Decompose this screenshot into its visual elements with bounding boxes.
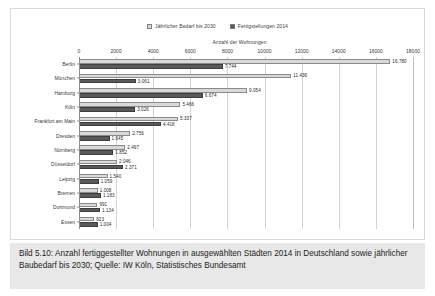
bar-value-label: 1.004 — [100, 222, 112, 227]
bar-bedarf — [79, 117, 178, 122]
x-tick-label: 4000 — [148, 48, 159, 54]
bar-item: 2.497 — [79, 145, 413, 150]
x-tick-label: 18000 — [406, 48, 420, 54]
x-tick-label: 2000 — [111, 48, 122, 54]
bar-item: 1.645 — [79, 136, 413, 141]
category-label: Frankfurt am Main — [34, 118, 75, 124]
x-tick-label: 16000 — [369, 48, 383, 54]
category-label: Leipzig — [59, 176, 75, 182]
bar-item: 7.744 — [79, 64, 413, 69]
bar-item: 4.418 — [79, 122, 413, 127]
bar-fertigstellungen — [79, 64, 223, 69]
chart-legend: Jährlicher Bedarf bis 2030 Fertigstellun… — [11, 23, 424, 29]
x-tick-label: 0 — [78, 48, 81, 54]
bar-group: 9.0546.674 — [79, 88, 413, 98]
bar-value-label: 1.183 — [103, 193, 115, 198]
bar-value-label: 1.059 — [101, 179, 113, 184]
bar-fertigstellungen — [79, 208, 100, 213]
bar-item: 16.780 — [79, 59, 413, 64]
x-tick-label: 12000 — [295, 48, 309, 54]
bar-row: Frankfurt am Main5.3374.418 — [79, 114, 413, 128]
bar-group: 9911.134 — [79, 203, 413, 213]
x-tick-label: 14000 — [332, 48, 346, 54]
x-axis-title: Anzahl der Wohnungen — [11, 39, 424, 45]
bar-item: 11.436 — [79, 74, 413, 79]
bar-row: Bremen1.0081.183 — [79, 186, 413, 200]
bar-item: 2.046 — [79, 160, 413, 165]
bar-value-label: 9.054 — [249, 88, 261, 93]
bar-bedarf — [79, 145, 125, 150]
bar-fertigstellungen — [79, 122, 161, 127]
bar-value-label: 2.497 — [127, 145, 139, 150]
legend-swatch-icon-fertigstellungen — [230, 24, 235, 29]
bar-value-label: 1.645 — [112, 136, 124, 141]
gridline — [79, 57, 80, 229]
category-label: Berlin — [62, 61, 75, 67]
bar-bedarf — [79, 74, 291, 79]
bar-value-label: 3.061 — [138, 79, 150, 84]
x-tick-label: 6000 — [185, 48, 196, 54]
figure-container: Jährlicher Bedarf bis 2030 Fertigstellun… — [0, 0, 435, 296]
bar-rows: Berlin16.7807.744München11.4363.061Hambu… — [79, 57, 413, 229]
bar-item: 1.008 — [79, 188, 413, 193]
bar-fertigstellungen — [79, 222, 98, 227]
x-tick-label: 8000 — [222, 48, 233, 54]
bar-item: 2.371 — [79, 165, 413, 170]
bar-row: Dresden2.7561.645 — [79, 129, 413, 143]
bar-bedarf — [79, 59, 390, 64]
bar-item: 6.674 — [79, 93, 413, 98]
bar-group: 2.4971.852 — [79, 145, 413, 155]
bar-item: 2.756 — [79, 131, 413, 136]
bar-group: 2.0462.371 — [79, 160, 413, 170]
bar-item: 991 — [79, 203, 413, 208]
bar-item: 5.337 — [79, 117, 413, 122]
bar-group: 5.3374.418 — [79, 117, 413, 127]
bar-bedarf — [79, 131, 130, 136]
bar-fertigstellungen — [79, 193, 101, 198]
bar-bedarf — [79, 88, 247, 93]
category-label: Bremen — [57, 190, 75, 196]
bar-row: Hamburg9.0546.674 — [79, 86, 413, 100]
bar-row: Dortmund9911.134 — [79, 200, 413, 214]
bar-bedarf — [79, 203, 97, 208]
bar-value-label: 16.780 — [392, 59, 406, 64]
bar-value-label: 7.744 — [225, 64, 237, 69]
category-label: Dresden — [56, 133, 75, 139]
bar-value-label: 1.134 — [102, 208, 114, 213]
bar-item: 5.466 — [79, 102, 413, 107]
category-label: Essen — [61, 219, 75, 225]
bar-item: 1.852 — [79, 150, 413, 155]
bar-group: 2.7561.645 — [79, 131, 413, 141]
bar-bedarf — [79, 102, 180, 107]
bar-fertigstellungen — [79, 179, 99, 184]
legend-entry-bedarf: Jährlicher Bedarf bis 2030 — [147, 23, 216, 29]
bar-value-label: 5.466 — [182, 102, 194, 107]
bar-group: 8231.004 — [79, 217, 413, 227]
plot-area: Berlin16.7807.744München11.4363.061Hambu… — [79, 57, 413, 229]
bar-fertigstellungen — [79, 165, 123, 170]
bar-group: 5.4663.026 — [79, 102, 413, 112]
bar-item: 1.183 — [79, 193, 413, 198]
legend-label-fertigstellungen: Fertigstellungen 2014 — [238, 23, 288, 29]
bar-item: 1.540 — [79, 174, 413, 179]
category-label: Köln — [65, 104, 75, 110]
bar-value-label: 2.756 — [132, 131, 144, 136]
legend-label-bedarf: Jährlicher Bedarf bis 2030 — [155, 23, 216, 29]
bar-row: Leipzig1.5401.059 — [79, 172, 413, 186]
x-tick-label: 10000 — [258, 48, 272, 54]
bar-value-label: 5.337 — [180, 116, 192, 121]
figure-caption: Bild 5.10: Anzahl fertiggestellter Wohnu… — [10, 243, 425, 289]
x-axis-tick-labels: 0200040006000800010000120001400016000180… — [79, 48, 413, 57]
bar-row: Düsseldorf2.0462.371 — [79, 157, 413, 171]
bar-group: 11.4363.061 — [79, 74, 413, 84]
bar-row: Nürnberg2.4971.852 — [79, 143, 413, 157]
bar-value-label: 2.371 — [125, 165, 137, 170]
bar-group: 1.0081.183 — [79, 188, 413, 198]
x-axis-title-text: Anzahl der Wohnungen — [212, 39, 266, 45]
bar-item: 1.004 — [79, 222, 413, 227]
bar-bedarf — [79, 160, 117, 165]
bar-row: Essen8231.004 — [79, 215, 413, 229]
category-label: Nürnberg — [54, 147, 75, 153]
bar-item: 3.026 — [79, 107, 413, 112]
category-label: Dortmund — [53, 204, 75, 210]
